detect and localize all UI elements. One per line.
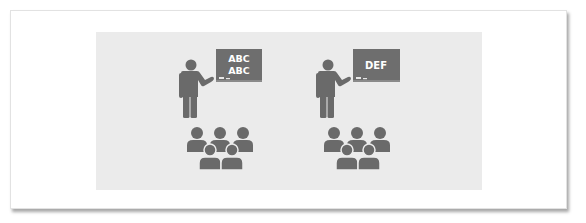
classroom-illustration: ABC ABC DEF <box>0 0 586 223</box>
board-text-line-1: DEF <box>365 60 387 71</box>
chalk-icon <box>219 77 224 79</box>
board-text-line-2: ABC <box>228 65 250 76</box>
chalk-icon <box>356 77 361 79</box>
students-group-icon <box>187 127 253 170</box>
teacher-icon <box>316 60 351 119</box>
scene-2: DEF <box>316 49 400 170</box>
chalkboard: ABC ABC <box>216 49 262 82</box>
students-group-icon <box>324 127 390 170</box>
teacher-icon <box>179 60 214 119</box>
board-text-line-1: ABC <box>228 53 250 64</box>
chalkboard: DEF <box>353 49 400 82</box>
scene-1: ABC ABC <box>179 49 262 170</box>
